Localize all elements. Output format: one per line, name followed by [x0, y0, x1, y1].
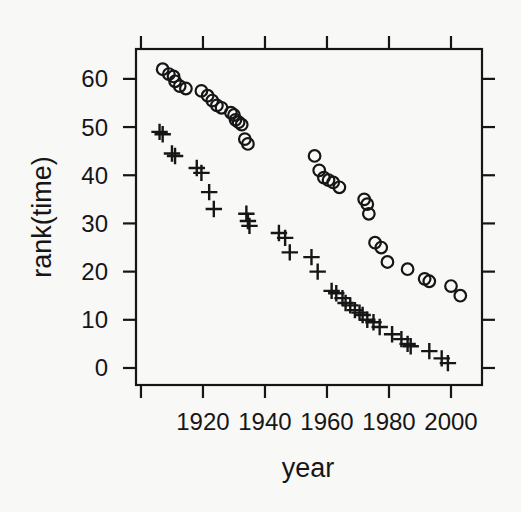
x-tick-label: 1920 — [176, 408, 229, 435]
scatter-plot-figure: 192019401960198020000102030405060 year r… — [0, 0, 521, 512]
circle-series — [157, 63, 466, 301]
x-axis-title: year — [282, 453, 335, 483]
circle-marker — [402, 263, 414, 275]
plus-marker — [421, 343, 437, 359]
x-tick-label: 2000 — [424, 408, 477, 435]
axes: 192019401960198020000102030405060 — [81, 36, 495, 435]
y-tick-label: 30 — [81, 210, 108, 237]
plus-marker — [303, 249, 319, 265]
x-tick-label: 1960 — [300, 408, 353, 435]
data-points — [151, 63, 466, 371]
x-tick-label: 1940 — [238, 408, 291, 435]
circle-marker — [454, 290, 466, 302]
plus-marker — [167, 148, 183, 164]
y-tick-label: 60 — [81, 65, 108, 92]
y-tick-label: 10 — [81, 306, 108, 333]
plus-series — [151, 124, 456, 372]
y-tick-label: 40 — [81, 162, 108, 189]
y-tick-label: 50 — [81, 114, 108, 141]
x-tick-label: 1980 — [362, 408, 415, 435]
plus-marker — [309, 263, 325, 279]
plot-canvas: 192019401960198020000102030405060 year r… — [0, 0, 521, 512]
plus-marker — [282, 244, 298, 260]
y-axis-title: rank(time) — [27, 156, 57, 278]
plus-marker — [154, 126, 170, 142]
circle-marker — [382, 256, 394, 268]
plus-marker — [151, 124, 167, 140]
circle-marker — [445, 280, 457, 292]
y-tick-label: 0 — [95, 354, 108, 381]
plus-marker — [206, 201, 222, 217]
circle-marker — [309, 150, 321, 162]
plus-marker — [201, 184, 217, 200]
y-tick-label: 20 — [81, 258, 108, 285]
plus-marker — [238, 206, 254, 222]
plus-marker — [164, 145, 180, 161]
plus-marker — [402, 338, 418, 354]
plot-frame — [136, 49, 482, 385]
